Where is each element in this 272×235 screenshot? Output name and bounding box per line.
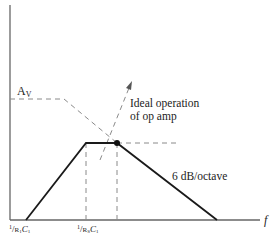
arrowhead-icon (126, 81, 132, 90)
ideal-label-line1: Ideal operation (130, 97, 200, 110)
slope-label: 6 dB/octave (172, 170, 227, 182)
gain-label: AV (17, 84, 32, 99)
bandpass-response-diagram: AV Ideal operation of op amp 6 dB/octave… (0, 0, 272, 235)
open-loop-gain-dashed (10, 99, 117, 143)
ideal-label-line2: of op amp (130, 110, 177, 123)
x-axis-label: f (264, 213, 269, 227)
tick-label-r1c1: 1/R1C1 (9, 224, 31, 234)
breakpoint-dot (114, 140, 120, 146)
tick-label-rsc1: 1/RSC1 (77, 224, 99, 234)
